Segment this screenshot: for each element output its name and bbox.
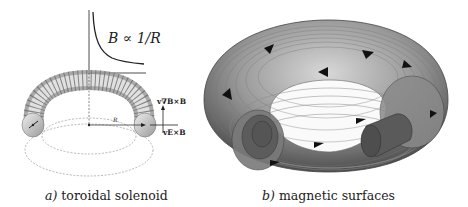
grad-b-drift-label: v∇B×B [157, 97, 186, 106]
caption-b: b) magnetic surfaces [262, 188, 395, 203]
caption-b-letter: b) [262, 188, 275, 203]
panel-toroidal-solenoid: B ∝ 1/R R v∇B×B vE×B a) toroidal solenoi… [0, 0, 200, 207]
caption-a-text: toroidal solenoid [61, 188, 167, 203]
caption-b-text: magnetic surfaces [279, 188, 395, 203]
outer-dashed-ellipse [25, 124, 153, 176]
radius-label: R [113, 116, 118, 123]
e-cross-b-drift-label: vE×B [163, 128, 186, 137]
caption-a: a) toroidal solenoid [45, 188, 168, 203]
b-proportional-formula: B ∝ 1/R [108, 30, 161, 46]
magnetic-surfaces-diagram [190, 0, 468, 207]
panel-magnetic-surfaces: b) magnetic surfaces [190, 0, 468, 207]
left-cross-section [232, 110, 284, 170]
caption-a-letter: a) [45, 188, 57, 203]
